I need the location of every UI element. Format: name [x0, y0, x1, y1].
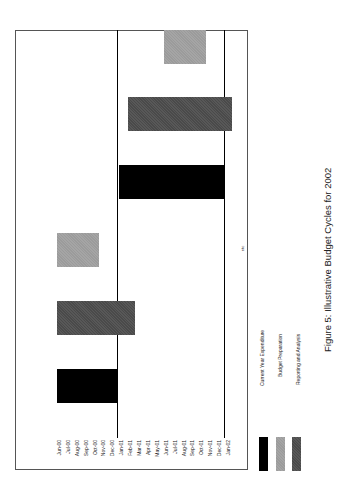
x-tick-label: Mar-01: [135, 440, 143, 470]
x-tick-label: Dec-01: [215, 440, 223, 470]
legend-swatch-current-year: [259, 437, 268, 471]
x-tick-label: Jun-00: [55, 440, 63, 470]
x-tick-label: May-01: [153, 440, 161, 470]
gantt-bar: [128, 97, 232, 131]
x-tick-label: Sep-00: [82, 440, 90, 470]
x-tick-label: Aug-01: [180, 440, 188, 470]
x-tick-label: Nov-00: [99, 440, 107, 470]
etc-annotation: etc: [240, 246, 245, 251]
x-tick-label: Jul-00: [64, 440, 72, 470]
x-tick-label: Oct-00: [91, 440, 99, 470]
x-tick-label: Aug-00: [73, 440, 81, 470]
x-tick-label: Jan-01: [117, 440, 125, 470]
x-tick-label: Jul-01: [171, 440, 179, 470]
legend-label-reporting: Reporting and Analysis: [295, 334, 301, 385]
gantt-bar: [57, 301, 135, 335]
legend-label-budget-prep: Budget Preparation: [277, 334, 283, 377]
x-tick-label: Nov-01: [206, 440, 214, 470]
figure-caption: Figure 5: Illustrative Budget Cycles for…: [322, 168, 333, 352]
gantt-bar: [57, 233, 99, 267]
x-tick-label: Dec-00: [108, 440, 116, 470]
legend-label-current-year: Current Year Expenditure: [259, 330, 265, 386]
gantt-bar: [164, 30, 206, 64]
x-tick-label: Jun-01: [162, 440, 170, 470]
x-tick-label: Jan-02: [224, 440, 232, 470]
legend-swatch-budget-prep: [276, 437, 285, 471]
gantt-bar: [119, 165, 223, 199]
x-tick-label: Apr-01: [144, 440, 152, 470]
reference-line: [117, 30, 118, 438]
x-tick-label: Oct-01: [197, 440, 205, 470]
x-tick-label: Sep-01: [188, 440, 196, 470]
reference-line: [224, 30, 225, 438]
chart-frame: [15, 30, 248, 470]
legend-swatch-reporting: [292, 437, 301, 471]
gantt-bar: [57, 369, 117, 403]
x-tick-label: Feb-01: [126, 440, 134, 470]
